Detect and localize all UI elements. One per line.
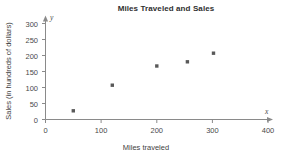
y-tick-label-0: 0	[34, 116, 38, 125]
data-point[interactable]	[111, 84, 114, 87]
y-tick-label-200: 200	[25, 52, 38, 61]
x-tick-label-300: 300	[206, 126, 219, 135]
data-point[interactable]	[155, 64, 158, 67]
data-point-group	[72, 52, 216, 113]
x-tick-label-100: 100	[95, 126, 108, 135]
data-point[interactable]	[212, 52, 215, 55]
y-tick-label-300: 300	[25, 20, 38, 29]
y-axis-variable-label: y	[49, 13, 54, 22]
y-tick-labels: 0 50 100 150 200 250 300	[25, 20, 38, 125]
data-point[interactable]	[72, 109, 75, 112]
y-tick-label-150: 150	[25, 68, 38, 77]
y-axis-arrow-icon	[43, 16, 48, 22]
y-tick-label-50: 50	[30, 100, 38, 109]
data-point[interactable]	[186, 60, 189, 63]
plot-area: y x 0 50 100 150 200 250 300	[0, 0, 287, 158]
scatter-plot-figure: Miles Traveled and Sales y x 0 50 100 15…	[0, 0, 287, 158]
x-tick-label-0: 0	[43, 126, 47, 135]
y-tick-label-250: 250	[25, 36, 38, 45]
y-axis-title: Sales (in hundreds of dollars)	[4, 22, 13, 120]
y-tick-label-100: 100	[25, 84, 38, 93]
x-axis-title: Miles traveled	[123, 143, 169, 152]
x-axis-variable-label: x	[264, 107, 269, 116]
x-tick-group	[46, 120, 269, 124]
y-tick-group	[42, 24, 46, 120]
x-tick-labels: 0 100 200 300 400	[43, 126, 274, 135]
x-tick-label-200: 200	[151, 126, 164, 135]
x-tick-label-400: 400	[262, 126, 275, 135]
